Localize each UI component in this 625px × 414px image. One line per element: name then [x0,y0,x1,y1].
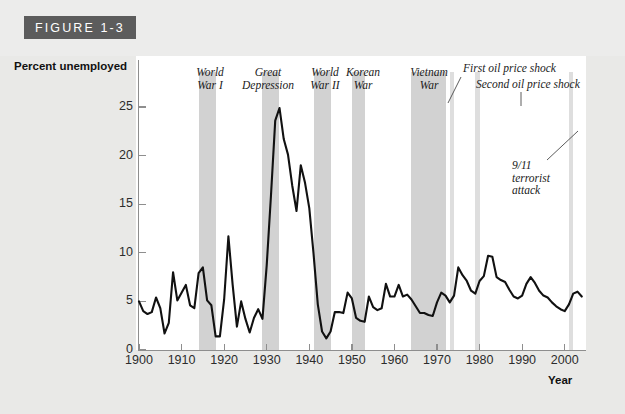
first-oil-shock-leader [448,77,461,103]
terrorist-attack-leader [547,131,578,160]
annotation-leaders-layer [0,0,625,414]
page-bottom-margin [0,392,625,414]
figure-root: FIGURE 1-3 0510152025 190019101920193019… [0,0,625,414]
